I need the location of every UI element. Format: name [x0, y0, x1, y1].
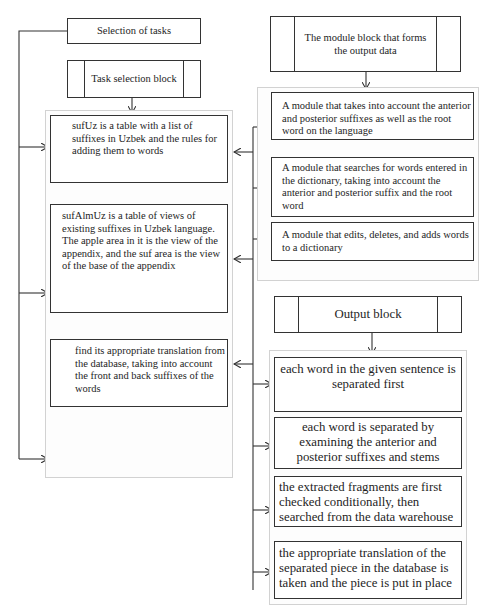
translation-box: find its appropriate translation from th… [50, 339, 228, 407]
module-edit-box: A module that edits, deletes, and adds w… [271, 222, 474, 261]
module-block-label: The module block that forms the output d… [299, 32, 432, 57]
sufuz-table-text: sufUz is a table with a list of suffixes… [72, 120, 222, 158]
task-selection-label: Task selection block [91, 73, 177, 86]
module-search-box: A module that searches for words entered… [271, 157, 474, 217]
sufalmuz-table-box: sufAlmUz is a table of views of existing… [50, 204, 228, 313]
task-selection-block: Task selection block [67, 60, 201, 98]
process-side-right [436, 17, 460, 71]
step-check-fragments-text: the extracted fragments are first checke… [279, 480, 461, 525]
module-search-text: A module that searches for words entered… [282, 162, 472, 212]
process-side-right [437, 297, 461, 332]
step-examine-suffixes-text: each word is separated by examining the … [277, 420, 459, 465]
process-side-left [275, 297, 299, 332]
process-side-left [68, 61, 85, 97]
step-examine-suffixes-box: each word is separated by examining the … [274, 417, 462, 469]
step-separate-words-box: each word in the given sentence is separ… [274, 357, 462, 412]
selection-of-tasks-label: Selection of tasks [97, 25, 171, 38]
translation-text: find its appropriate translation from th… [75, 345, 225, 395]
process-side-right [183, 61, 200, 97]
module-block: The module block that forms the output d… [270, 16, 461, 72]
step-separate-words-text: each word in the given sentence is separ… [279, 362, 457, 392]
module-edit-text: A module that edits, deletes, and adds w… [282, 229, 472, 254]
selection-of-tasks-box: Selection of tasks [67, 18, 201, 44]
sufuz-table-box: sufUz is a table with a list of suffixes… [50, 115, 228, 183]
output-block: Output block [274, 296, 462, 333]
module-suffix-root-text: A module that takes into account the ant… [282, 100, 472, 138]
step-translation-text: the appropriate translation of the separ… [279, 546, 461, 591]
output-block-label: Output block [334, 307, 401, 322]
process-side-left [271, 17, 295, 71]
sufalmuz-table-text: sufAlmUz is a table of views of existing… [62, 210, 224, 273]
step-check-fragments-box: the extracted fragments are first checke… [274, 476, 462, 527]
module-suffix-root-box: A module that takes into account the ant… [271, 92, 474, 140]
step-translation-box: the appropriate translation of the separ… [274, 541, 462, 599]
